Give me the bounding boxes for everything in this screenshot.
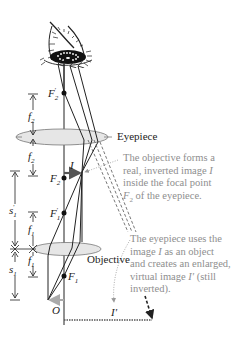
virtual-image-arrow [145, 296, 152, 318]
eye-icon [40, 22, 92, 66]
f2-label: F2 [49, 172, 61, 187]
eyepiece-note-leader [114, 240, 130, 302]
virtual-image-label: I′ [110, 306, 118, 318]
s1-prime-dim-label: s1′ [9, 203, 17, 219]
f1-point [62, 274, 67, 279]
f1-label: F1 [67, 270, 78, 285]
object-label: O [52, 304, 60, 316]
f2-point [62, 176, 67, 181]
f1-prime-point [62, 211, 67, 216]
s1-dim-label: s1 [9, 263, 17, 278]
objective-label: Objective [87, 253, 130, 265]
objective-annotation: The objective forms a real, inverted ima… [123, 152, 215, 206]
objective-note-leader [85, 160, 118, 172]
f1-lower-dim-label: f1 [28, 254, 35, 269]
f1-upper-dim-label: f1 [28, 223, 35, 238]
image-label: I [69, 159, 75, 171]
f2-prime-point [62, 91, 67, 96]
f1-prime-label: F1′ [49, 206, 60, 222]
f2-prime-label: F2′ [47, 86, 59, 102]
f2-lower-dim-label: f2 [28, 150, 35, 165]
f2-upper-dim-label: f2 [28, 110, 35, 125]
eyepiece-annotation: The eyepiece uses the image I as an obje… [130, 233, 231, 296]
eyepiece-label: Eyepiece [117, 130, 157, 142]
eyepiece-lens [16, 129, 108, 145]
